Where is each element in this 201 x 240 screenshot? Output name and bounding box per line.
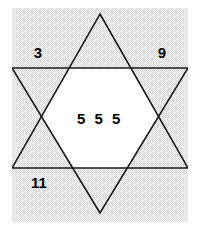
star-of-david-figure — [0, 0, 201, 240]
figure-canvas: 3 9 11 5 5 5 — [0, 0, 201, 240]
